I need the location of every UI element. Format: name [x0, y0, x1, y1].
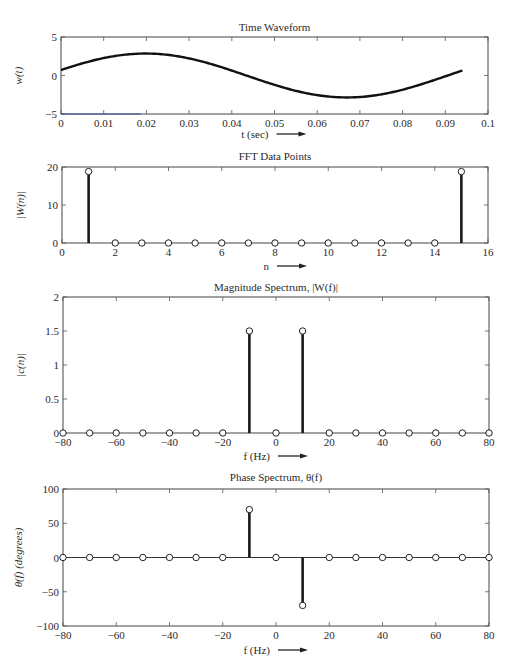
x-tick-label: 0 [59, 246, 65, 258]
stem-marker [353, 554, 359, 560]
x-tick-label: 2 [113, 246, 119, 258]
x-tick-label: 0 [273, 629, 279, 641]
y-axis-label: θ(f) (degrees) [12, 527, 25, 587]
x-tick-label: 40 [377, 629, 389, 641]
x-tick-label: 20 [324, 629, 336, 641]
x-tick-label: −60 [108, 436, 126, 448]
stem-marker [165, 240, 171, 246]
stem-marker [219, 240, 225, 246]
phase-spectrum-chart: Phase Spectrum, θ(f)−80−60−40−2002040608… [12, 471, 495, 657]
x-tick-label: 20 [324, 436, 336, 448]
stem-marker [220, 430, 226, 436]
y-axis-label: w(t) [12, 66, 25, 84]
stem-marker [86, 554, 92, 560]
stem-marker [433, 554, 439, 560]
y-axis-label: |W(n)| [14, 191, 27, 219]
stem-marker [193, 430, 199, 436]
x-tick-label: 14 [429, 246, 441, 258]
magnitude-spectrum-chart: Magnitude Spectrum, |W(f)|−80−60−40−2002… [14, 281, 495, 463]
chart-title: Magnitude Spectrum, |W(f)| [214, 281, 338, 294]
stem-marker [326, 430, 332, 436]
plot-frame [62, 167, 488, 243]
y-tick-label: 0.5 [45, 393, 59, 405]
y-tick-label: 0 [54, 552, 60, 564]
stem-marker [299, 328, 305, 334]
y-tick-label: −5 [45, 108, 57, 120]
x-axis-label: f (Hz) [243, 450, 270, 463]
y-tick-label: 50 [48, 517, 60, 529]
y-tick-label: 10 [47, 199, 59, 211]
x-tick-label: 0.07 [350, 117, 370, 129]
fft-data-points-chart: FFT Data Points024681012141620100n|W(n)| [14, 150, 494, 272]
x-tick-label: 0.04 [222, 117, 242, 129]
stem-marker [60, 554, 66, 560]
stem-marker [459, 430, 465, 436]
stem-marker [433, 430, 439, 436]
x-tick-label: 0.08 [393, 117, 413, 129]
stem-marker [326, 554, 332, 560]
x-axis-label: f (Hz) [243, 644, 270, 657]
stem-marker [86, 430, 92, 436]
waveform-line [61, 54, 462, 98]
x-tick-label: 6 [219, 246, 225, 258]
x-tick-label: 0.09 [436, 117, 456, 129]
y-tick-label: 100 [43, 483, 60, 495]
y-tick-label: 0 [54, 427, 60, 439]
plot-frame [63, 297, 489, 433]
y-tick-label: 5 [52, 31, 58, 43]
x-tick-label: 60 [430, 629, 442, 641]
x-axis-label: n [264, 260, 270, 272]
y-tick-label: −100 [36, 620, 59, 632]
x-axis-label: t (sec) [241, 128, 269, 141]
y-tick-label: 0 [52, 70, 58, 82]
x-tick-label: −20 [214, 629, 232, 641]
stem-marker [220, 554, 226, 560]
chart-title: Phase Spectrum, θ(f) [230, 471, 323, 484]
x-tick-label: 0.06 [308, 117, 328, 129]
stem-marker [166, 554, 172, 560]
stem-marker [272, 240, 278, 246]
x-tick-label: 4 [166, 246, 172, 258]
x-tick-label: 8 [272, 246, 278, 258]
figure-canvas: Time Waveform00.010.020.030.040.050.060.… [0, 0, 511, 663]
stem-marker [353, 430, 359, 436]
stem-marker [486, 430, 492, 436]
stem-marker [85, 168, 91, 174]
x-tick-label: −60 [108, 629, 126, 641]
stem-marker [379, 430, 385, 436]
x-tick-label: 80 [484, 436, 496, 448]
stem-marker [379, 554, 385, 560]
y-tick-label: −50 [42, 586, 60, 598]
stem-marker [406, 430, 412, 436]
y-tick-label: 0 [53, 237, 59, 249]
stem-marker [60, 430, 66, 436]
x-tick-label: 12 [376, 246, 387, 258]
stem-marker [273, 430, 279, 436]
stem-marker [405, 240, 411, 246]
plot-frame [61, 37, 488, 114]
stem-marker [273, 554, 279, 560]
stem-marker [378, 240, 384, 246]
x-tick-label: 40 [377, 436, 389, 448]
stem-marker [166, 430, 172, 436]
x-tick-label: −40 [161, 436, 179, 448]
x-tick-label: 0.02 [137, 117, 156, 129]
chart-title: FFT Data Points [239, 150, 312, 162]
stem-marker [193, 554, 199, 560]
stem-marker [113, 554, 119, 560]
stem-marker [299, 602, 305, 608]
x-tick-label: 0 [273, 436, 279, 448]
x-tick-label: 60 [430, 436, 442, 448]
x-tick-label: 0 [58, 117, 64, 129]
stem-marker [140, 430, 146, 436]
stem-marker [432, 240, 438, 246]
stem-marker [298, 240, 304, 246]
x-tick-label: 10 [323, 246, 335, 258]
stem-marker [325, 240, 331, 246]
stem-marker [192, 240, 198, 246]
y-tick-label: 1.5 [45, 325, 59, 337]
stem-marker [112, 240, 118, 246]
stem-marker [246, 328, 252, 334]
stem-marker [459, 554, 465, 560]
stem-marker [486, 554, 492, 560]
